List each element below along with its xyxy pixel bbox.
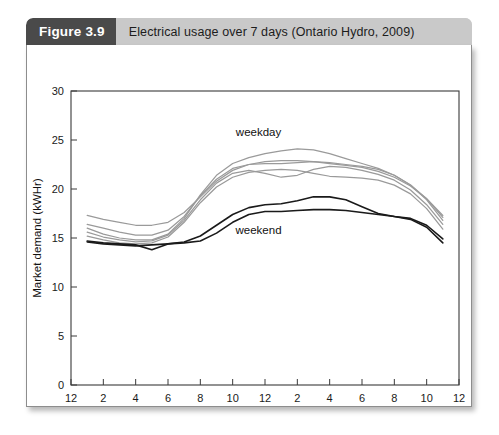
chart-plot-area: 051015202530 122468101224681012 weekdayw… (27, 45, 471, 406)
x-tick-label: 2 (100, 392, 106, 404)
x-tick-label: 6 (359, 392, 365, 404)
figure-card: Figure 3.9 Electrical usage over 7 days … (26, 18, 472, 408)
y-tick-label: 15 (52, 232, 64, 244)
x-tick-label: 6 (165, 392, 171, 404)
annotation-group: weekdayweekend (235, 126, 282, 236)
y-tick-label: 20 (52, 183, 64, 195)
x-tick-label: 12 (259, 392, 271, 404)
figure-title: Electrical usage over 7 days (Ontario Hy… (116, 18, 472, 45)
x-tick-label: 2 (294, 392, 300, 404)
figure-header: Figure 3.9 Electrical usage over 7 days … (26, 18, 472, 45)
y-tick-label: 0 (58, 379, 64, 391)
annotation-weekday: weekday (235, 126, 282, 138)
y-tick-label: 25 (52, 134, 64, 146)
y-tick-label: 10 (52, 281, 64, 293)
figure-number-label: Figure 3.9 (26, 18, 116, 45)
y-axis-ticks: 051015202530 (52, 85, 77, 391)
line-chart: 051015202530 122468101224681012 weekdayw… (27, 45, 471, 405)
y-axis-title: Market demand (kWHr) (31, 178, 43, 298)
x-tick-label: 8 (391, 392, 397, 404)
x-tick-label: 8 (197, 392, 203, 404)
x-tick-label: 10 (227, 392, 239, 404)
x-axis-ticks: 122468101224681012 (65, 379, 465, 404)
x-tick-label: 12 (453, 392, 465, 404)
annotation-weekend: weekend (235, 224, 282, 236)
y-tick-label: 5 (58, 330, 64, 342)
x-tick-label: 12 (65, 392, 77, 404)
y-tick-label: 30 (52, 85, 64, 97)
figure-body: 051015202530 122468101224681012 weekdayw… (26, 45, 472, 407)
x-tick-label: 4 (327, 392, 333, 404)
x-tick-label: 4 (133, 392, 139, 404)
x-tick-label: 10 (421, 392, 433, 404)
